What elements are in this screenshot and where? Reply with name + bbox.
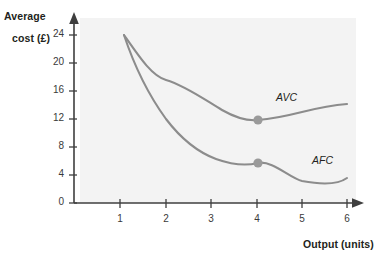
x-tick-label-6: 6 [340,213,354,224]
y-tick-label-16: 16 [42,84,64,95]
y-axis-title-line1: Average [4,10,46,22]
afc-curve-label: AFC [312,154,333,166]
y-axis-ticks [69,35,77,203]
avc-marker-point [253,115,262,124]
x-tick-label-5: 5 [295,213,309,224]
plot-area-background [80,18,356,203]
y-tick-label-4: 4 [42,168,64,179]
y-tick-label-8: 8 [42,140,64,151]
y-tick-label-0: 0 [42,196,64,207]
avc-curve-label: AVC [276,91,297,103]
afc-marker-point [253,158,262,167]
average-cost-chart: Average cost (£) Output (units) 0 4 8 12… [0,0,379,259]
x-tick-label-1: 1 [113,213,127,224]
x-tick-label-3: 3 [204,213,218,224]
y-tick-label-20: 20 [42,56,64,67]
x-axis-title: Output (units) [303,238,374,250]
y-tick-label-12: 12 [42,112,64,123]
y-tick-label-24: 24 [42,28,64,39]
x-tick-label-2: 2 [159,213,173,224]
x-tick-label-4: 4 [250,213,264,224]
